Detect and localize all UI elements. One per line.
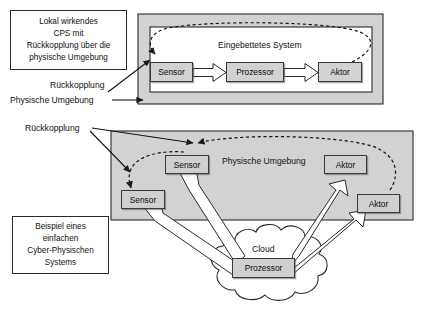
top-node-aktor: Aktor bbox=[318, 62, 362, 82]
top-callout-line-1: Lokal wirkendes bbox=[39, 16, 98, 28]
bottom-node-aktor-upper-label: Aktor bbox=[336, 160, 356, 170]
bottom-node-aktor-lower-label: Aktor bbox=[369, 199, 389, 209]
bottom-callout-line-2: einfachen bbox=[43, 233, 79, 245]
bottom-annotation-rueckkopplung: Rückkopplung bbox=[25, 123, 79, 133]
bottom-callout-line-1: Beispiel eines bbox=[35, 221, 86, 233]
top-annotation-rueckkopplung: Rückkopplung bbox=[50, 80, 104, 90]
top-node-sensor: Sensor bbox=[150, 62, 193, 82]
top-node-prozessor-label: Prozessor bbox=[236, 67, 274, 77]
bottom-node-sensor-lower: Sensor bbox=[121, 190, 165, 209]
embedded-system-label: Eingebettetes System bbox=[218, 40, 302, 50]
bottom-callout-line-4: Systems bbox=[45, 257, 76, 269]
bottom-environment-label: Physische Umgebung bbox=[222, 156, 306, 166]
top-node-sensor-label: Sensor bbox=[158, 67, 185, 77]
bottom-node-prozessor: Prozessor bbox=[232, 258, 295, 278]
bottom-node-sensor-upper-label: Sensor bbox=[174, 160, 201, 170]
diagram-canvas: Lokal wirkendes CPS mit Rückkopplung übe… bbox=[0, 0, 426, 313]
bottom-callout-line-3: Cyber-Physischen bbox=[27, 245, 93, 257]
top-node-prozessor: Prozessor bbox=[226, 62, 284, 82]
top-callout-line-3: Rückkopplung über die bbox=[27, 40, 111, 52]
top-embedded-system-rect bbox=[150, 27, 372, 92]
bottom-callout-box: Beispiel eines einfachen Cyber-Physische… bbox=[12, 216, 109, 274]
bottom-node-sensor-upper: Sensor bbox=[165, 155, 209, 174]
top-callout-box: Lokal wirkendes CPS mit Rückkopplung übe… bbox=[10, 10, 127, 70]
top-annotation-physische-umgebung: Physische Umgebung bbox=[10, 95, 94, 105]
bottom-node-aktor-upper: Aktor bbox=[324, 155, 367, 174]
top-callout-line-4: physische Umgebung bbox=[29, 52, 108, 64]
bottom-node-prozessor-label: Prozessor bbox=[245, 263, 283, 273]
bottom-node-aktor-lower: Aktor bbox=[357, 194, 400, 213]
top-callout-line-2: CPS mit bbox=[53, 28, 83, 40]
cloud-label: Cloud bbox=[252, 244, 274, 254]
bottom-node-sensor-lower-label: Sensor bbox=[130, 195, 157, 205]
top-node-aktor-label: Aktor bbox=[330, 67, 350, 77]
